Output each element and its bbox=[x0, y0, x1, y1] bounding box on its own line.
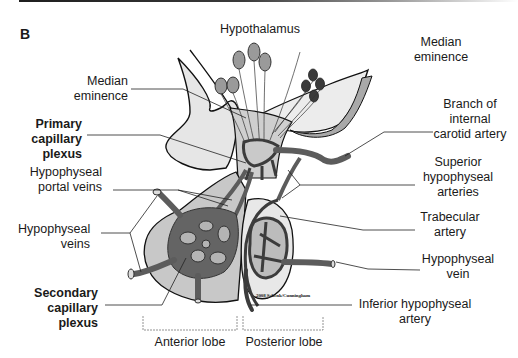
label-hypophyseal-vein: Hypophyseal vein bbox=[418, 252, 498, 282]
hypophyseal-vein-upper bbox=[158, 192, 180, 215]
copyright-text: 2008 Schenk/Cunningham bbox=[256, 293, 310, 298]
label-primary-capillary-plexus: Primary capillary plexus bbox=[20, 117, 82, 162]
posterior-capillary-plexus bbox=[250, 218, 287, 278]
hypophyseal-vein-posterior bbox=[284, 262, 332, 264]
label-median-eminence-right: Median eminence bbox=[404, 35, 478, 65]
label-hypothalamus: Hypothalamus bbox=[220, 22, 300, 37]
label-inferior-hypophyseal-artery: Inferior hypophyseal artery bbox=[355, 297, 475, 327]
median-eminence-left-shape bbox=[166, 58, 238, 170]
label-posterior-lobe: Posterior lobe bbox=[243, 335, 325, 350]
label-anterior-lobe: Anterior lobe bbox=[143, 335, 237, 350]
neurons-light bbox=[215, 43, 271, 94]
internal-carotid-branch bbox=[276, 150, 348, 162]
label-branch-internal-carotid: Branch of internal carotid artery bbox=[425, 97, 515, 142]
label-secondary-capillary-plexus: Secondary capillary plexus bbox=[20, 286, 98, 331]
label-trabecular-artery: Trabecular artery bbox=[415, 210, 485, 240]
label-median-eminence-left: Median eminence bbox=[70, 74, 128, 104]
label-hypophyseal-veins: Hypophyseal veins bbox=[18, 222, 90, 252]
secondary-capillary-plexus bbox=[168, 208, 239, 279]
lobe-brackets bbox=[143, 316, 323, 330]
label-superior-hypophyseal-arteries: Superior hypophyseal arteries bbox=[418, 155, 498, 200]
label-hypophyseal-portal-veins: Hypophyseal portal veins bbox=[20, 165, 102, 195]
